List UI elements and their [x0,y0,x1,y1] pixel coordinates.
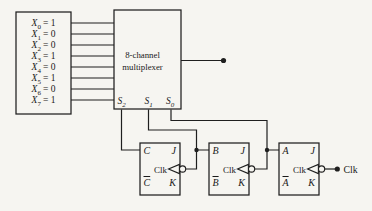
ff3-clock-edge-triangle-icon [308,164,319,173]
mux-title-line1: 8-channel [114,50,171,61]
ff3-output-bar-label: A [283,177,289,188]
ff3-clock-inversion-bubble-icon [319,166,325,172]
s0-to-ff2-clock-wire [255,150,267,169]
select-s1-label: S1 [137,96,161,107]
ff1-j-label: J [164,145,176,156]
ff2-clk-label: Clk [213,165,236,176]
ff1-clock-edge-triangle-icon [169,164,180,173]
input-x3-label: X3= 1 [16,51,71,62]
s1-to-ff1-clock-wire [186,150,197,169]
s1-junction-dot [194,148,198,152]
ff2-clock-edge-triangle-icon [238,164,249,173]
input-x6-label: X6= 0 [16,84,71,95]
ff1-clock-inversion-bubble-icon [180,166,186,172]
select-s0-label: S0 [158,96,182,107]
s0-junction-dot [265,148,269,152]
s1-net-wire [149,110,210,151]
input-x7-label: X7= 1 [16,95,71,106]
ff3-j-label: J [303,145,315,156]
input-x2-label: X2= 0 [16,40,71,51]
ff2-output-label: B [213,145,219,156]
ff1-clk-label: Clk [144,165,167,176]
ff2-k-label: K [233,177,245,188]
ff3-output-label: A [283,145,289,156]
select-s2-label: S2 [110,96,134,107]
input-x0-label: X0= 1 [16,18,71,29]
ff3-clk-label: Clk [283,165,306,176]
ff2-clock-inversion-bubble-icon [249,166,255,172]
ff2-output-bar-label: B [213,177,219,188]
mux-output-terminal-dot [221,58,226,63]
input-x5-label: X5= 1 [16,73,71,84]
mux-title-line2: multiplexer [114,62,171,73]
circuit-diagram: X0= 1 X1= 0 X2= 0 X3= 1 X4= 0 X5= 1 X6= … [0,0,372,211]
ff1-output-bar-label: C [144,177,151,188]
input-x4-label: X4= 0 [16,62,71,73]
ff1-k-label: K [164,177,176,188]
s2-net-wire [122,110,141,151]
ff2-j-label: J [233,145,245,156]
ff1-output-label: C [144,145,151,156]
input-x1-label: X1= 0 [16,29,71,40]
ff3-k-label: K [303,177,315,188]
external-clock-label: Clk [344,164,358,175]
external-clock-terminal-dot [335,166,340,171]
